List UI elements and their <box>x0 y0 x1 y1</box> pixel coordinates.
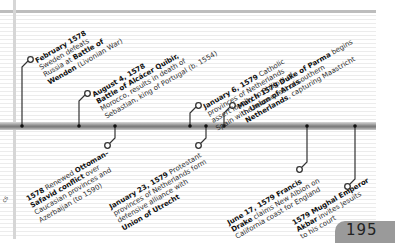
bar-dot <box>353 124 357 128</box>
connector-akbar-1579 <box>350 126 355 184</box>
connector-jan23-1579 <box>201 126 206 143</box>
bar-dot <box>20 124 24 128</box>
bar-dot <box>113 124 117 128</box>
connector-jun-1579 <box>302 126 307 167</box>
connector-ottoman-1578 <box>110 126 115 143</box>
bar-dot <box>305 124 309 128</box>
marker-jun-1579 <box>297 167 303 173</box>
marker-ottoman-1578 <box>105 143 111 149</box>
bar-dot <box>77 124 81 128</box>
marker-jan6-1579 <box>196 103 202 109</box>
connector-feb-1578 <box>22 61 28 126</box>
page-number: 195 <box>346 221 378 239</box>
bar-dot <box>204 124 208 128</box>
connector-aug-1578 <box>79 95 85 126</box>
marker-feb-1578 <box>28 57 34 63</box>
marker-jan23-1579 <box>196 143 202 149</box>
marker-aug-1578 <box>85 91 91 97</box>
connector-jan6-1579 <box>190 107 196 126</box>
bar-dot <box>188 124 192 128</box>
